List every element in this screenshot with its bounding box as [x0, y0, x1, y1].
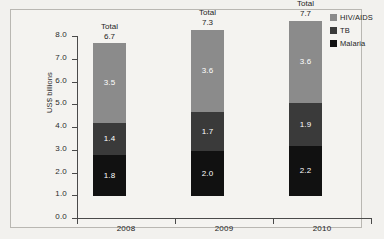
y-tick-label: 1.0 [55, 189, 67, 198]
y-tick-label: 0.0 [55, 212, 67, 221]
bar-total-2008: Total 6.7 [81, 22, 138, 41]
total-value: 6.7 [81, 32, 138, 42]
y-tick-4: 4.0 [35, 127, 77, 128]
y-tick-0: 0.0 [35, 218, 77, 219]
segment-value: 3.6 [191, 67, 224, 75]
segment-value: 3.5 [93, 79, 126, 87]
y-tick-label: 4.0 [55, 121, 67, 130]
legend-item-tb[interactable]: TB [330, 25, 384, 36]
x-tick-mark [371, 219, 372, 224]
x-tick-mark [77, 219, 78, 224]
y-tick-1: 1.0 [35, 195, 77, 196]
bar-segment-hiv-2008[interactable]: 3.5 [93, 43, 126, 123]
legend-label: Malaria [340, 39, 365, 48]
segment-value: 2.2 [289, 167, 322, 175]
y-tick-label: 7.0 [55, 53, 67, 62]
segment-value: 1.9 [289, 121, 322, 129]
x-category-2008: 2008 [96, 224, 156, 233]
y-tick-label: 8.0 [55, 30, 67, 39]
x-category-2009: 2009 [194, 224, 254, 233]
bar-segment-malaria-2009[interactable]: 2.0 [191, 151, 224, 196]
bar-segment-tb-2009[interactable]: 1.7 [191, 112, 224, 151]
segment-value: 3.6 [289, 58, 322, 66]
bar-group-2010[interactable]: Total 7.7 3.6 1.9 2.2 [289, 21, 322, 196]
x-tick-mark [273, 219, 274, 224]
legend-item-hiv-aids[interactable]: HIV/AIDS [330, 12, 384, 23]
bar-segment-malaria-2010[interactable]: 2.2 [289, 146, 322, 196]
y-tick-5: 5.0 [35, 104, 77, 105]
bar-group-2009[interactable]: Total 7.3 3.6 1.7 2.0 [191, 30, 224, 196]
y-axis-line [77, 36, 78, 219]
legend-label: TB [340, 26, 350, 35]
total-value: 7.3 [179, 18, 236, 28]
total-word: Total [179, 8, 236, 18]
bar-group-2008[interactable]: Total 6.7 3.5 1.4 1.8 [93, 43, 126, 196]
segment-value: 1.4 [93, 135, 126, 143]
bar-total-2010: Total 7.7 [277, 0, 334, 18]
bar-segment-hiv-2009[interactable]: 3.6 [191, 30, 224, 112]
legend-swatch-icon [330, 40, 337, 47]
y-tick-8: 8.0 [35, 36, 77, 37]
y-tick-3: 3.0 [35, 150, 77, 151]
x-axis-line [77, 218, 372, 219]
segment-value: 2.0 [191, 170, 224, 178]
chart-figure: US$ billions 8.0 7.0 6.0 5.0 4.0 3.0 2.0 [10, 9, 362, 228]
legend-swatch-icon [330, 27, 337, 34]
legend-item-malaria[interactable]: Malaria [330, 38, 384, 49]
total-word: Total [81, 22, 138, 32]
y-tick-label: 2.0 [55, 167, 67, 176]
y-tick-7: 7.0 [35, 59, 77, 60]
segment-value: 1.8 [93, 172, 126, 180]
bar-segment-malaria-2008[interactable]: 1.8 [93, 155, 126, 196]
total-word: Total [277, 0, 334, 9]
x-category-2010: 2010 [292, 224, 352, 233]
legend-label: HIV/AIDS [340, 13, 373, 22]
plot-area: 8.0 7.0 6.0 5.0 4.0 3.0 2.0 1.0 [11, 10, 361, 227]
bar-segment-tb-2010[interactable]: 1.9 [289, 103, 322, 146]
x-tick-mark [175, 219, 176, 224]
y-tick-2: 2.0 [35, 173, 77, 174]
total-value: 7.7 [277, 9, 334, 19]
legend-swatch-icon [330, 14, 337, 21]
bar-segment-hiv-2010[interactable]: 3.6 [289, 21, 322, 103]
chart-legend: HIV/AIDS TB Malaria [330, 12, 384, 51]
segment-value: 1.7 [191, 128, 224, 136]
y-tick-label: 6.0 [55, 76, 67, 85]
y-tick-label: 3.0 [55, 144, 67, 153]
bar-segment-tb-2008[interactable]: 1.4 [93, 123, 126, 155]
y-tick-label: 5.0 [55, 98, 67, 107]
bar-total-2009: Total 7.3 [179, 8, 236, 27]
y-tick-6: 6.0 [35, 82, 77, 83]
